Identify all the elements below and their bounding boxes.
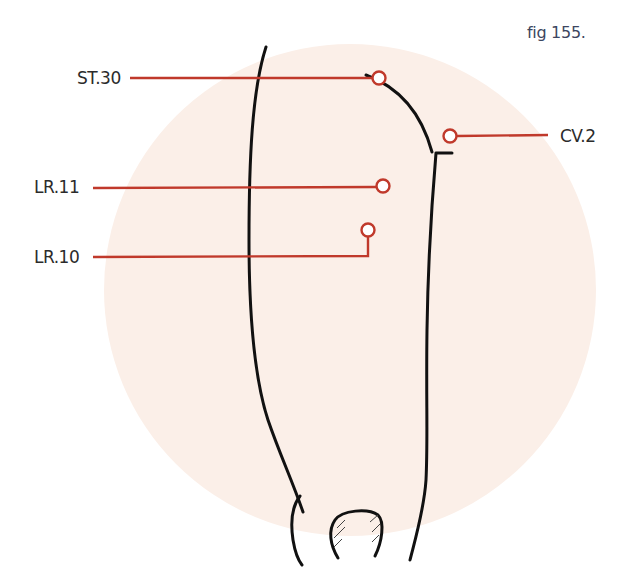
acupoint-marker-lr10[interactable] <box>362 224 375 237</box>
point-label-cv2: CV.2 <box>560 126 596 146</box>
acupoint-diagram: fig 155. ST.30 LR.11 LR.10 CV. <box>0 0 624 570</box>
point-label-lr10: LR.10 <box>34 247 79 267</box>
background-disc <box>104 44 596 536</box>
point-label-st30: ST.30 <box>77 68 121 88</box>
acupoint-marker-lr11[interactable] <box>377 180 390 193</box>
leader-line-lr11 <box>93 187 376 188</box>
leader-line-cv2 <box>457 135 548 136</box>
acupoint-marker-cv2[interactable] <box>444 130 457 143</box>
figure-caption: fig 155. <box>527 23 586 42</box>
acupoint-marker-st30[interactable] <box>373 72 386 85</box>
point-label-lr11: LR.11 <box>34 177 79 197</box>
